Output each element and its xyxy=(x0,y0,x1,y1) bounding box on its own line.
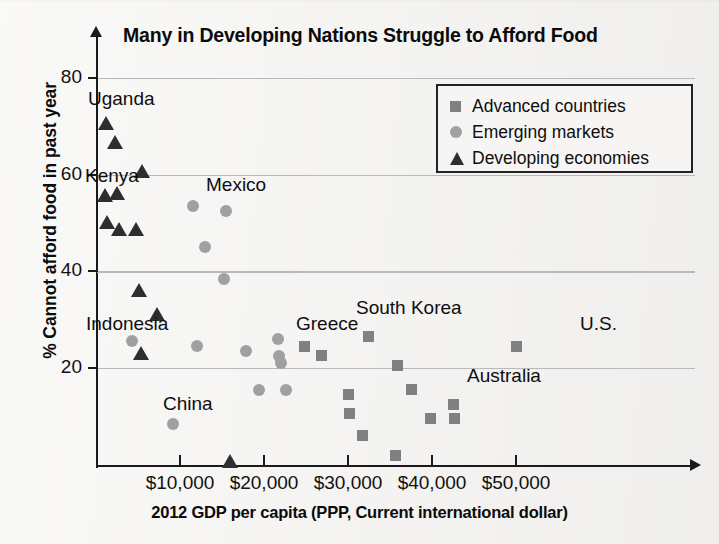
x-axis-tick xyxy=(179,455,181,466)
gridline xyxy=(97,271,695,272)
annotation-label: Uganda xyxy=(88,88,155,110)
annotation-label: U.S. xyxy=(580,313,617,335)
x-axis-tick xyxy=(431,455,433,466)
data-point-triangle xyxy=(98,116,114,130)
annotation-label: South Korea xyxy=(356,297,462,319)
data-point-square xyxy=(343,389,354,400)
data-point-circle xyxy=(199,241,211,253)
data-point-square xyxy=(448,399,459,410)
y-axis-tick xyxy=(88,77,98,79)
data-point-triangle xyxy=(133,346,149,360)
data-point-square xyxy=(299,341,310,352)
data-point-circle xyxy=(191,340,203,352)
data-point-triangle xyxy=(109,186,125,200)
legend: Advanced countries Emerging markets Deve… xyxy=(436,84,693,173)
data-point-square xyxy=(344,408,355,419)
x-axis-arrow-icon xyxy=(690,459,701,471)
data-point-circle xyxy=(220,205,232,217)
data-point-triangle xyxy=(128,222,144,236)
triangle-marker-icon xyxy=(450,152,472,165)
y-axis-tick xyxy=(88,367,98,369)
y-axis-tick xyxy=(88,270,98,272)
data-point-triangle xyxy=(222,454,238,468)
data-point-circle xyxy=(272,333,284,345)
data-point-square xyxy=(511,341,522,352)
legend-label: Emerging markets xyxy=(472,122,614,143)
legend-label: Advanced countries xyxy=(472,96,626,117)
y-axis-title: % Cannot afford food in past year xyxy=(40,11,61,431)
data-point-square xyxy=(390,450,401,461)
data-point-square xyxy=(425,413,436,424)
y-axis-arrow-icon xyxy=(90,26,102,37)
annotation-label: Greece xyxy=(296,313,358,335)
gridline xyxy=(97,175,695,176)
legend-item-advanced-countries[interactable]: Advanced countries xyxy=(450,93,681,119)
data-point-circle xyxy=(187,200,199,212)
square-marker-icon xyxy=(450,101,472,112)
page-title: Many in Developing Nations Struggle to A… xyxy=(123,24,598,47)
data-point-triangle xyxy=(131,283,147,297)
data-point-circle xyxy=(280,384,292,396)
x-axis-tick-label: $50,000 xyxy=(461,472,571,494)
x-axis-title: 2012 GDP per capita (PPP, Current intern… xyxy=(0,503,719,522)
data-point-triangle xyxy=(107,135,123,149)
data-point-square xyxy=(449,413,460,424)
chart-page: Many in Developing Nations Struggle to A… xyxy=(0,0,719,544)
data-point-circle xyxy=(240,345,252,357)
data-point-square xyxy=(316,350,327,361)
data-point-circle xyxy=(218,273,230,285)
data-point-circle xyxy=(275,357,287,369)
legend-label: Developing economies xyxy=(472,148,649,169)
data-point-square xyxy=(392,360,403,371)
annotation-label: China xyxy=(163,393,213,415)
data-point-triangle xyxy=(111,222,127,236)
annotation-label: Kenya xyxy=(85,165,139,187)
data-point-circle xyxy=(167,418,179,430)
data-point-circle xyxy=(253,384,265,396)
annotation-label: Mexico xyxy=(206,174,266,196)
x-axis-line xyxy=(96,465,692,467)
x-axis-tick xyxy=(515,455,517,466)
annotation-label: Indonesia xyxy=(86,313,168,335)
data-point-square xyxy=(406,384,417,395)
x-axis-tick xyxy=(347,455,349,466)
legend-item-developing-economies[interactable]: Developing economies xyxy=(450,145,681,171)
annotation-label: Australia xyxy=(467,365,541,387)
circle-marker-icon xyxy=(450,126,472,138)
legend-item-emerging-markets[interactable]: Emerging markets xyxy=(450,119,681,145)
gridline xyxy=(97,78,695,79)
data-point-square xyxy=(357,430,368,441)
x-axis-tick xyxy=(263,455,265,466)
data-point-square xyxy=(363,331,374,342)
